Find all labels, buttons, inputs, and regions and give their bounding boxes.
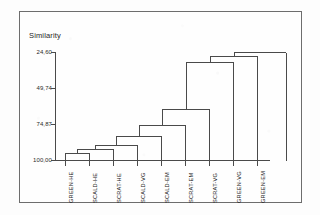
merge-node-1 [66, 154, 90, 161]
merge-node-4 [117, 137, 162, 161]
leaf-label-scald-em: SCALD-EM [164, 172, 170, 203]
leaf-label-scrat-vg: SCRAT-VG [212, 173, 218, 203]
leaf-label-green-vg: GREEN-VG [236, 171, 242, 203]
root-node [235, 53, 287, 57]
leaf-label-green-he: GREEN-HE [68, 171, 74, 203]
dendrogram-plot [0, 0, 320, 215]
merge-node-5 [140, 126, 186, 161]
leaf-label-green-em: GREEN-EM [260, 171, 266, 203]
merge-node-2 [78, 150, 114, 161]
leaf-label-scrat-em: SCRAT-EM [188, 173, 194, 204]
leaf-label-scrat-he: SCRAT-HE [116, 173, 122, 203]
leaf-label-scald-vg: SCALD-VG [140, 172, 146, 203]
merge-node-3 [96, 146, 138, 161]
dendrogram-figure: Similarity 24,60 49,74 74,87 100,00 [0, 0, 320, 215]
leaf-label-scald-he: SCALD-HE [92, 173, 98, 203]
